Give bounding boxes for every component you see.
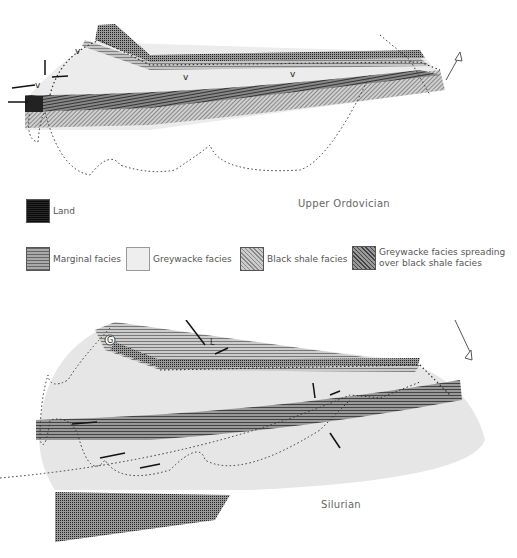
svg-text:v: v <box>35 80 41 90</box>
marginal-swatch <box>26 247 50 271</box>
legend-spreading-label-2: over black shale facies <box>379 258 505 269</box>
greywacke-swatch <box>126 247 150 271</box>
legend-spreading-label-1: Greywacke facies spreading <box>379 247 505 258</box>
legend-greywacke-label: Greywacke facies <box>153 254 232 264</box>
silurian-map: G L <box>0 320 517 558</box>
period-label-silurian: Silurian <box>321 499 361 510</box>
upper-ordovician-map: vvvv <box>0 0 517 200</box>
mark-g: G <box>107 336 113 345</box>
north-arrow-icon-lower <box>455 320 472 360</box>
legend-marginal-label: Marginal facies <box>53 254 121 264</box>
legend-black-shale: Black shale facies <box>240 247 347 271</box>
legend-land: Land <box>26 199 75 223</box>
mark-l: L <box>210 338 215 347</box>
svg-text:v: v <box>75 46 81 56</box>
period-label-upper-ordovician: Upper Ordovician <box>298 198 390 209</box>
black-shale-swatch <box>240 247 264 271</box>
north-arrow-icon <box>446 52 462 80</box>
legend-land-label: Land <box>53 206 75 216</box>
legend-black-shale-label: Black shale facies <box>267 254 347 264</box>
spreading-swatch <box>352 246 376 270</box>
svg-text:v: v <box>183 72 189 82</box>
legend-marginal: Marginal facies <box>26 247 121 271</box>
svg-text:v: v <box>290 69 296 79</box>
land-swatch <box>26 199 50 223</box>
legend-spreading: Greywacke facies spreading over black sh… <box>352 246 505 270</box>
legend-greywacke: Greywacke facies <box>126 247 232 271</box>
